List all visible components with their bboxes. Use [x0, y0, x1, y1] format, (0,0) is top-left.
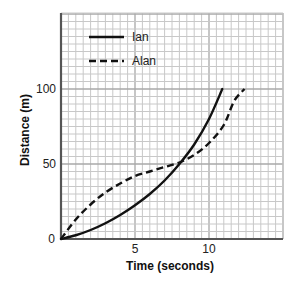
y-tick-label-50: 50 [43, 157, 57, 171]
x-axis-title: Time (seconds) [126, 259, 214, 273]
x-tick-label-5: 5 [132, 242, 139, 256]
legend-label-ian: Ian [132, 30, 149, 44]
distance-time-chart: Ian Alan 0 5 10 50 100 Time (seconds) Di… [0, 0, 297, 285]
origin-tick-label: 0 [48, 232, 55, 246]
legend-label-alan: Alan [132, 54, 156, 68]
legend: Ian Alan [84, 28, 164, 70]
y-tick-label-100: 100 [36, 82, 56, 96]
x-tick-label-10: 10 [202, 242, 216, 256]
y-axis-title: Distance (m) [18, 94, 32, 166]
